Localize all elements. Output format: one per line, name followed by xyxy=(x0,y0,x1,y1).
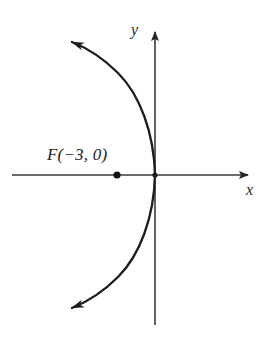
y-axis-label: y xyxy=(131,22,138,38)
vertex-point-dot xyxy=(152,172,157,177)
parabola-figure: y x F(−3, 0) xyxy=(0,0,275,338)
x-axis-label: x xyxy=(246,182,253,198)
parabola-lower-branch xyxy=(72,175,155,308)
graph-canvas xyxy=(0,0,275,338)
focus-point-dot xyxy=(113,171,120,178)
focus-point-label: F(−3, 0) xyxy=(47,146,107,163)
